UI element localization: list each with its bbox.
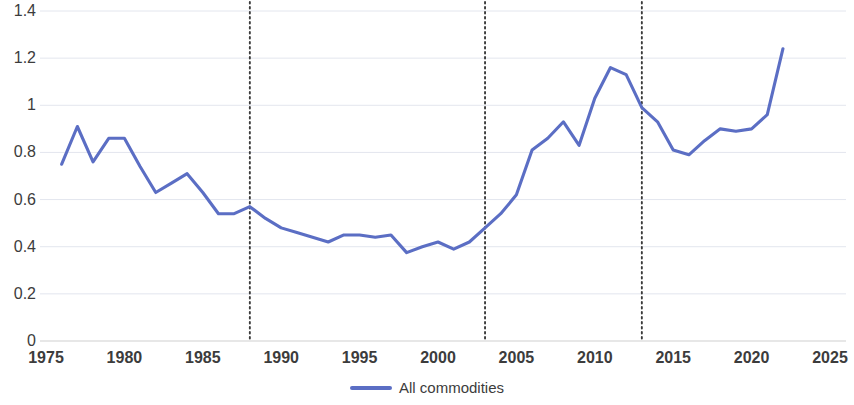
x-axis-tick-label: 1990 <box>251 350 311 366</box>
x-axis-tick-label: 2000 <box>408 350 468 366</box>
x-axis-tick-label: 1995 <box>330 350 390 366</box>
chart-legend: All commodities <box>0 379 854 396</box>
y-axis-tick-label: 1.2 <box>2 50 36 66</box>
chart-container: 00.20.40.60.811.21.4 1975198019851990199… <box>0 0 854 405</box>
x-axis-tick-label: 1975 <box>16 350 76 366</box>
data-series-lines <box>62 49 783 253</box>
line-chart <box>0 0 854 405</box>
y-axis-tick-label: 0.8 <box>2 144 36 160</box>
series-line-all-commodities <box>62 49 783 253</box>
gridlines <box>40 11 846 341</box>
x-axis-tick-label: 2005 <box>486 350 546 366</box>
x-axis-tick-label: 2020 <box>722 350 782 366</box>
x-axis-tick-label: 2015 <box>643 350 703 366</box>
annotation-vertical-lines <box>250 2 642 341</box>
x-axis-tick-label: 2025 <box>800 350 854 366</box>
y-axis-tick-label: 1.4 <box>2 3 36 19</box>
x-axis-tick-label: 2010 <box>565 350 625 366</box>
legend-label-all-commodities: All commodities <box>399 379 504 396</box>
x-axis-tick-label: 1985 <box>173 350 233 366</box>
y-axis-tick-label: 0.2 <box>2 286 36 302</box>
x-axis-tick-label: 1980 <box>94 350 154 366</box>
y-axis-tick-label: 0 <box>2 333 36 349</box>
y-axis-tick-label: 0.6 <box>2 192 36 208</box>
y-axis-tick-label: 0.4 <box>2 239 36 255</box>
y-axis-tick-label: 1 <box>2 97 36 113</box>
legend-color-swatch <box>350 386 392 390</box>
